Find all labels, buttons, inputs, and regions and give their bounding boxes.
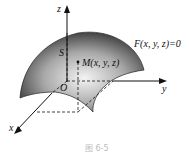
x-arrow-icon [14,126,22,134]
surface-S [20,32,144,112]
z-label: z [56,3,61,14]
surface-label: S [59,47,64,58]
origin-label: O [60,82,67,93]
point-label: M(x, y, z) [81,57,120,69]
y-label: y [161,83,167,94]
x-label: x [8,122,14,133]
figure-caption: 图 6-5 [85,144,109,153]
point-M [77,61,80,64]
equation-label: F(x, y, z)=0 [133,38,181,50]
surface-diagram: z y x O S M(x, y, z) F(x, y, z)=0 图 6-5 [0,0,189,153]
z-arrow-icon [64,5,70,13]
